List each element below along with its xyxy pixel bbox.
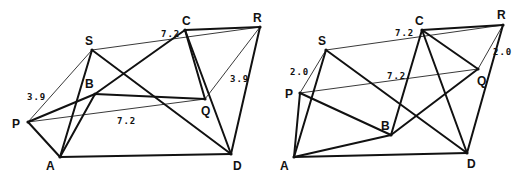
length-label: 2.0	[493, 47, 512, 57]
vertex-label-a: A	[280, 159, 289, 173]
vertex-d	[465, 151, 468, 154]
vertex-label-s: S	[318, 34, 326, 48]
vertex-s	[90, 48, 93, 51]
segment-as	[60, 50, 92, 157]
length-label: 7.2	[387, 71, 406, 81]
vertex-label-c: C	[415, 14, 424, 28]
vertex-label-r: R	[497, 8, 506, 22]
vertex-r	[258, 25, 261, 28]
vertex-label-p: P	[12, 117, 20, 131]
length-label: 3.9	[27, 92, 46, 102]
vertex-label-s: S	[85, 34, 93, 48]
vertex-d	[229, 152, 232, 155]
length-label: 2.0	[290, 67, 309, 77]
vertex-a	[292, 155, 295, 158]
vertex-a	[58, 155, 61, 158]
vertex-label-d: D	[467, 157, 476, 171]
segment-sd	[92, 50, 231, 154]
vertex-label-a: A	[46, 159, 55, 173]
vertex-b	[389, 133, 392, 136]
segment-cq	[422, 30, 478, 69]
segment-sd	[326, 50, 467, 153]
vertex-b	[93, 92, 96, 95]
segment-cr	[422, 25, 503, 30]
vertex-label-q: Q	[201, 104, 210, 118]
segment-ad	[294, 153, 467, 157]
segment-sr	[326, 25, 503, 50]
segment-cd	[422, 30, 467, 153]
figure-left: PASBCRQD3.97.23.97.2	[12, 11, 262, 173]
geometry-diagram: PASBCRQD3.97.23.97.2 SPABCRQD2.07.27.22.…	[0, 0, 517, 184]
vertex-label-c: C	[182, 14, 191, 28]
segment-ab	[60, 94, 95, 157]
vertex-r	[501, 23, 504, 26]
vertex-q	[476, 67, 479, 70]
segment-bq	[95, 94, 205, 99]
segment-ad	[60, 154, 231, 157]
length-label: 7.2	[117, 116, 136, 126]
vertex-label-b: B	[85, 77, 94, 91]
figure-right: SPABCRQD2.07.27.22.0	[280, 8, 512, 173]
vertex-label-r: R	[253, 11, 262, 25]
segment-cd	[185, 30, 231, 154]
length-label: 3.9	[230, 74, 249, 84]
segment-rd	[467, 25, 503, 153]
vertex-c	[183, 28, 186, 31]
vertex-c	[420, 28, 423, 31]
vertex-label-d: D	[233, 159, 242, 173]
vertex-p	[26, 120, 29, 123]
segment-bc	[391, 30, 422, 135]
vertex-label-b: B	[381, 119, 390, 133]
length-label: 7.2	[161, 29, 180, 39]
segment-ab	[294, 135, 391, 157]
segment-pa	[28, 122, 60, 157]
vertex-s	[324, 48, 327, 51]
vertex-q	[203, 97, 206, 100]
segment-ps	[28, 50, 92, 122]
vertex-label-p: P	[285, 87, 293, 101]
segment-pb	[300, 93, 391, 135]
vertex-p	[298, 91, 301, 94]
vertex-label-q: Q	[477, 74, 486, 88]
length-label: 7.2	[395, 28, 414, 38]
